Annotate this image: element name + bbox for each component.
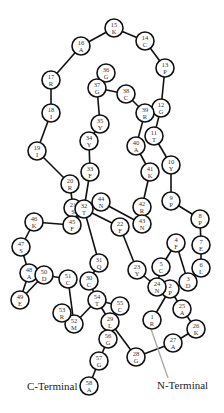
residue-letter: R (49, 80, 54, 87)
residue-number: 10 (168, 158, 175, 165)
residue-letter: A (180, 309, 185, 316)
residue-number: 28 (133, 350, 140, 357)
residue-letter: A (171, 343, 176, 350)
residue-number: 11 (151, 129, 157, 136)
residue-number: 3 (186, 275, 189, 282)
residue-44: 44N (92, 193, 110, 211)
residue-letter: C (118, 306, 122, 313)
residue-number: 27 (170, 336, 177, 343)
residue-number: 31 (96, 256, 103, 263)
residue-number: 19 (34, 144, 41, 151)
residue-15: 15K (105, 19, 123, 37)
residue-letter: F (174, 243, 178, 250)
residue-letter: N (99, 202, 104, 209)
residue-number: 33 (87, 165, 94, 172)
residue-letter: G (97, 361, 102, 368)
n-terminal-label: N-Terminal (157, 379, 208, 391)
residue-number: 37 (94, 81, 101, 88)
residue-letter: K (194, 329, 199, 336)
residue-letter: R (60, 313, 65, 320)
residue-letter: P (168, 289, 172, 296)
residue-3: 3D (179, 273, 197, 291)
residue-letter: C (66, 279, 70, 286)
residue-letter: Q (97, 263, 102, 270)
residue-number: 46 (31, 215, 38, 222)
residue-number: 55 (117, 299, 124, 306)
residue-letter: Y (135, 270, 140, 277)
residue-27: 27A (164, 334, 182, 352)
residue-letter: R (143, 113, 148, 120)
residue-42: 42R (133, 198, 151, 216)
residue-number: 44 (98, 195, 105, 202)
residue-51: 51C (59, 270, 77, 288)
residue-number: 50 (41, 268, 48, 275)
residue-letter: N (155, 287, 160, 294)
residue-28: 28G (127, 348, 145, 366)
c-terminal-label: C-Terminal (27, 380, 78, 392)
residue-number: 43 (139, 217, 146, 224)
residue-letter: P (198, 219, 202, 226)
residue-4: 4F (167, 234, 185, 252)
residue-number: 18 (48, 106, 55, 113)
residue-39: 39R (136, 104, 154, 122)
residue-letter: N (140, 224, 145, 231)
residue-40: 40A (127, 137, 145, 155)
residue-26: 26K (187, 320, 205, 338)
residue-letter: P (169, 201, 173, 208)
residue-number: 14 (142, 34, 149, 41)
residue-letter: Y (169, 165, 174, 172)
residue-22: 22F (111, 218, 129, 236)
residue-number: 49 (17, 293, 24, 300)
residue-number: 36 (103, 66, 110, 73)
residue-56: 56G (99, 330, 117, 348)
residue-letter: D (42, 275, 47, 282)
residue-1: 1R (143, 311, 161, 329)
residue-letter: T (82, 209, 86, 216)
residue-32: 32T (75, 200, 93, 218)
residue-letter: K (148, 172, 153, 179)
residue-letter: G (104, 73, 109, 80)
residue-8: 8P (191, 210, 209, 228)
residue-letter: R (68, 184, 73, 191)
residue-number: 54 (94, 293, 101, 300)
residue-10: 10Y (162, 156, 180, 174)
residue-number: 22 (117, 220, 124, 227)
residue-number: 58 (86, 379, 93, 386)
residue-letter: F (118, 227, 122, 234)
residue-30: 30C (80, 272, 98, 290)
residue-33: 33F (81, 163, 99, 181)
residue-letter: G (134, 357, 139, 364)
residue-letter: Y (87, 141, 92, 148)
residue-letter: K (112, 28, 117, 35)
residue-number: 24 (154, 280, 161, 287)
residue-number: 38 (123, 87, 130, 94)
residue-50: 50D (35, 266, 53, 284)
n-terminal-pointer-line (151, 329, 168, 378)
residue-letter: C (143, 41, 147, 48)
residue-letter: C (159, 267, 163, 274)
residue-number: 52 (71, 317, 78, 324)
residue-letter: P (163, 68, 167, 75)
residue-letter: T (95, 300, 99, 307)
residue-number: 9 (169, 194, 172, 201)
residue-11: 11T (145, 127, 163, 145)
residue-number: 29 (107, 315, 114, 322)
residue-letter: D (186, 282, 191, 289)
residue-number: 34 (86, 134, 93, 141)
residue-55: 55C (111, 297, 129, 315)
residue-35: 35Y (91, 115, 109, 133)
residue-number: 17 (48, 73, 55, 80)
residue-13: 13P (156, 59, 174, 77)
residue-number: 30 (86, 274, 93, 281)
residue-number: 23 (134, 263, 141, 270)
residue-number: 12 (158, 101, 165, 108)
residue-letter: C (87, 281, 91, 288)
residue-31: 31Q (90, 254, 108, 272)
residue-number: 45 (69, 218, 76, 225)
residue-letter: I (50, 113, 52, 120)
residue-19: 19I (28, 142, 46, 160)
residue-number: 51 (65, 272, 72, 279)
residue-43: 43N (133, 215, 151, 233)
residue-38: 38C (117, 85, 135, 103)
residue-letter: R (140, 207, 145, 214)
